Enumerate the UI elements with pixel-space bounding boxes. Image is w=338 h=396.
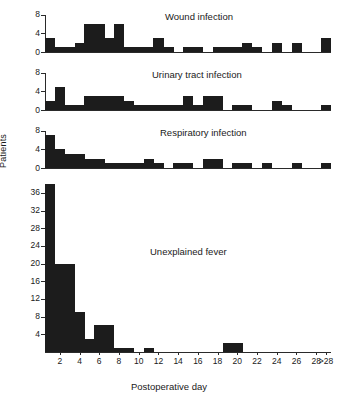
bar [45,38,55,52]
bar [65,264,75,352]
y-tick-label: 8 [0,68,40,77]
panel-urinary-tract-infection: 048Urinary tract infection [0,68,338,112]
baseline [45,110,331,111]
x-tick-mark [257,352,258,355]
bar [163,47,173,52]
y-tick-label: 16 [0,277,40,286]
bar [45,101,55,110]
y-tick-label: 20 [0,259,40,268]
bar [321,105,331,110]
panel-wound-infection: 048Wound infection [0,10,338,54]
bar [134,105,144,110]
bar [104,325,114,352]
x-tick-mark [326,352,327,355]
bar [55,87,65,110]
x-tick-mark [316,352,317,355]
x-tick-mark [139,352,140,355]
x-tick-label: >28 [314,357,338,366]
bar [232,105,242,110]
bar [223,47,233,52]
figure-postoperative-infections: Patients 048Wound infection048Urinary tr… [0,0,338,396]
bar [144,47,154,52]
bar [104,38,114,52]
bar [292,43,302,52]
bar [124,163,134,168]
x-tick-mark [198,352,199,355]
bars-unexplained-fever [45,184,331,352]
panel-title-respiratory-infection: Respiratory infection [160,127,247,138]
bar [65,47,75,52]
baseline [45,352,331,353]
bar [84,159,94,168]
x-tick-mark [99,352,100,355]
bar [232,163,242,168]
y-tick-label: 12 [0,294,40,303]
bar [65,105,75,110]
bar [193,47,203,52]
bar [173,163,183,168]
bar [153,38,163,52]
baseline [45,168,331,169]
bar [114,96,124,110]
bar [55,264,65,352]
y-tick-label: 8 [0,312,40,321]
bar [75,43,85,52]
panel-title-urinary-tract-infection: Urinary tract infection [152,69,242,80]
bar [84,96,94,110]
bar [75,154,85,168]
x-tick-mark [296,352,297,355]
bar [223,343,233,352]
bar [242,43,252,52]
bar [104,163,114,168]
bar [213,159,223,168]
bar [173,105,183,110]
bar [144,105,154,110]
x-tick-mark [237,352,238,355]
panel-title-wound-infection: Wound infection [165,11,233,22]
bar [45,184,55,352]
bar [104,96,114,110]
baseline [45,52,331,53]
x-axis-label: Postoperative day [0,381,338,392]
bar [242,163,252,168]
bar [94,325,104,352]
y-tick-label: 4 [0,145,40,154]
panel-respiratory-infection: 048Respiratory infection [0,126,338,170]
x-tick-mark [218,352,219,355]
bar [65,154,75,168]
bar [55,149,65,168]
bar [153,105,163,110]
bar [94,24,104,52]
y-tick-label: 4 [0,87,40,96]
bar [45,135,55,168]
bar [183,163,193,168]
bar [114,163,124,168]
bar [84,339,94,352]
bar [124,101,134,110]
bar [213,47,223,52]
bar [321,163,331,168]
bar [213,96,223,110]
bar [144,159,154,168]
bar [203,159,213,168]
y-tick-label: 0 [0,164,40,173]
bar [153,163,163,168]
bar [193,105,203,110]
x-tick-mark [80,352,81,355]
bar [144,348,154,352]
y-tick-label: 4 [0,330,40,339]
bar [183,47,193,52]
bar [94,96,104,110]
bar [232,47,242,52]
x-tick-mark [277,352,278,355]
x-tick-mark [158,352,159,355]
y-tick-label: 0 [0,106,40,115]
bar [282,105,292,110]
y-tick-label: 24 [0,241,40,250]
bar [252,47,262,52]
bar [75,312,85,352]
panel-unexplained-fever: 4812162024283236Unexplained fever [0,184,338,354]
y-tick-label: 0 [0,48,40,57]
bar [94,159,104,168]
y-tick-label: 28 [0,224,40,233]
